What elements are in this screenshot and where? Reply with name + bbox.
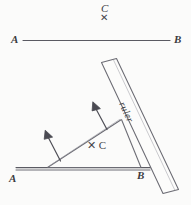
left-arrow-head bbox=[44, 130, 52, 139]
geometry-figure: C ✕ A B A B ✕ C ruler bbox=[0, 0, 191, 205]
top-line-label-b: B bbox=[174, 34, 181, 45]
top-line-label-a: A bbox=[11, 34, 18, 45]
bottom-panel-group bbox=[16, 59, 179, 194]
left-arrow-shaft bbox=[48, 137, 61, 162]
bottom-line-label-b: B bbox=[137, 170, 144, 181]
bottom-point-c-annotation: ✕ C bbox=[87, 140, 106, 151]
figure-canvas bbox=[0, 0, 191, 205]
left-perpendicular-arrow bbox=[44, 130, 60, 161]
right-arrow-shaft bbox=[96, 108, 108, 130]
triangle-hypotenuse bbox=[48, 120, 122, 168]
top-point-c-marker: ✕ bbox=[100, 13, 108, 23]
right-perpendicular-arrow bbox=[92, 102, 107, 130]
right-arrow-head bbox=[92, 102, 100, 111]
triangle-inner-hint bbox=[50, 119, 121, 166]
bottom-line-label-a: A bbox=[9, 173, 16, 184]
